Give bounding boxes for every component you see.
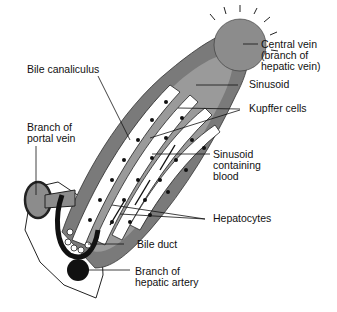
label-bile-canaliculus: Bile canaliculus [27,64,99,75]
label-branch-portal-vein: Branch of portal vein [27,122,75,144]
label-kupffer-cells: Kupffer cells [249,103,307,114]
label-sinusoid: Sinusoid [249,79,289,90]
label-hepatic-artery: Branch of hepatic artery [135,266,199,288]
label-bile-duct: Bile duct [137,239,177,250]
hepatic-artery-branch [67,259,89,281]
central-vein [214,19,266,71]
label-central-vein: Central vein (branch of hepatic vein) [261,39,321,72]
label-hepatocytes: Hepatocytes [213,213,271,224]
label-sinusoid-blood: Sinusoid containing blood [213,149,261,182]
label-central-vein-line3: hepatic vein) [261,61,321,72]
label-sinusoid-blood-line3: blood [213,171,261,182]
label-hepatic-artery-line2: hepatic artery [135,277,199,288]
label-branch-portal-line2: portal vein [27,133,75,144]
